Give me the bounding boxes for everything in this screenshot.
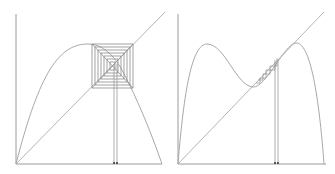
left-panel bbox=[0, 0, 335, 174]
figure-canvas bbox=[0, 0, 335, 174]
right-drop-lines bbox=[275, 60, 278, 164]
left-cobweb bbox=[92, 44, 133, 88]
left-diagonal bbox=[16, 12, 165, 164]
right-map-curve bbox=[178, 43, 324, 164]
left-map-curve bbox=[16, 44, 162, 164]
right-diagonal bbox=[178, 12, 324, 164]
